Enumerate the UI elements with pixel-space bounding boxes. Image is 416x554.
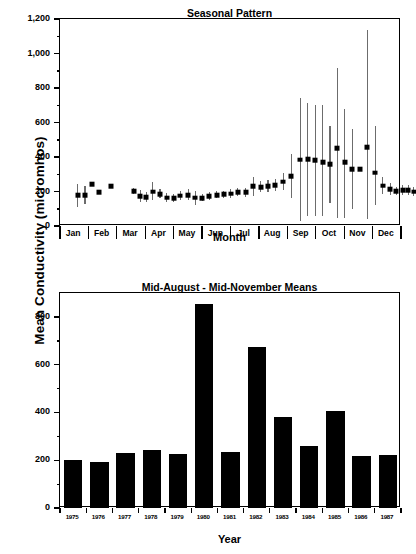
bottom-x-tick-mark [112,508,113,513]
bottom-x-tick-label: 1978 [144,513,157,520]
bar [116,453,134,508]
bottom-x-axis-title: Year [59,533,400,545]
bottom-y-minor-tick [57,484,61,485]
bar [221,452,239,508]
bottom-y-tick-mark [54,316,60,317]
bottom-x-tick-label: 1986 [354,513,367,520]
bar [195,304,213,508]
bottom-y-minor-tick [57,436,61,437]
bottom-y-tick-label: 600 [35,359,50,369]
bottom-x-tick-label: 1976 [92,513,105,520]
bottom-y-tick-mark [54,412,60,413]
bar [169,454,187,508]
bottom-x-tick-label: 1984 [302,513,315,520]
bottom-x-tick-mark [269,508,270,513]
bottom-x-tick-label: 1987 [380,513,393,520]
bottom-plot-area [59,292,400,507]
bottom-x-tick-mark [348,508,349,513]
bottom-x-tick-mark [164,508,165,513]
data-point-marker [411,189,416,194]
bar [326,411,344,508]
bottom-y-minor-tick [57,388,61,389]
bottom-y-tick-mark [54,460,60,461]
bottom-y-tick-label: 0 [45,502,50,512]
bottom-x-tick-label: 1981 [223,513,236,520]
bar [90,462,108,508]
bottom-x-tick-label: 1980 [197,513,210,520]
bar [352,456,370,508]
bottom-x-tick-mark [217,508,218,513]
bottom-y-tick-label: 200 [35,454,50,464]
bottom-x-tick-mark [400,508,401,513]
bottom-x-tick-mark [374,508,375,513]
bottom-x-tick-mark [243,508,244,513]
bar [143,450,161,508]
bottom-x-tick-mark [59,508,60,513]
bar [300,446,318,508]
bottom-x-tick-label: 1985 [328,513,341,520]
bottom-x-tick-mark [191,508,192,513]
bottom-y-minor-tick [57,340,61,341]
bar [248,347,266,508]
bottom-x-tick-mark [322,508,323,513]
bar [64,460,82,508]
bottom-x-tick-label: 1977 [118,513,131,520]
bottom-y-tick-label: 400 [35,406,50,416]
bottom-x-tick-label: 1983 [275,513,288,520]
bottom-x-tick-label: 1975 [66,513,79,520]
bar [274,417,292,508]
bar [379,455,397,508]
bottom-x-tick-label: 1979 [171,513,184,520]
bottom-x-tick-mark [295,508,296,513]
bottom-x-tick-mark [138,508,139,513]
bottom-y-tick-label: 800 [35,311,50,321]
bottom-y-tick-mark [54,364,60,365]
bottom-x-tick-mark [86,508,87,513]
bottom-x-tick-label: 1982 [249,513,262,520]
